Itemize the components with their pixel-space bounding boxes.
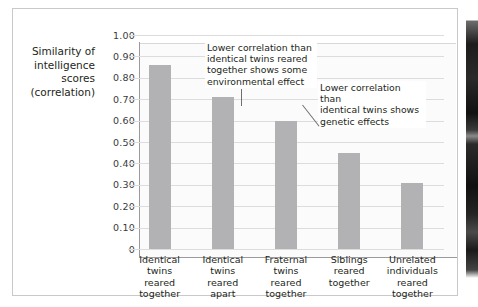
bar [149,65,171,249]
x-axis-tick-label-line: Unrelated [381,254,444,265]
annotation-line: identical twins reared [207,53,315,64]
y-axis-title-line: intelligence [27,59,95,73]
x-axis-tick-label-line: reared [254,277,317,288]
x-axis-tick-label: Identicaltwinsrearedapart [191,254,254,299]
annotation-line: Lower correlation than [320,82,424,104]
annotation-genetic-effects: Lower correlation than identical twins s… [318,81,426,128]
x-axis-tick-label-line: Fraternal [254,254,317,265]
bar [212,97,234,249]
x-axis-tick-label-line: reared [318,265,381,276]
x-axis-tick-label-line: reared [381,277,444,288]
annotation-line: Lower correlation than [207,42,315,53]
x-axis-tick-label: Identicaltwinsrearedtogether [128,254,191,299]
x-axis-tick-label-line: twins [191,265,254,276]
bar [401,183,423,249]
x-axis-tick-label-line: apart [191,288,254,299]
x-axis-tick-label-line: Siblings [318,254,381,265]
x-axis-tick-label-line: together [254,288,317,299]
annotation-line: genetic effects [320,116,424,127]
y-axis-title-line: Similarity of [27,45,95,59]
annotation-environmental-effect: Lower correlation than identical twins r… [205,41,317,88]
x-axis-tick-label-line: reared [128,277,191,288]
x-axis-tick-label-line: together [381,288,444,299]
figure-frame: Similarity of intelligence scores (corre… [12,8,458,296]
x-axis-tick-label-line: twins [254,265,317,276]
y-axis-title: Similarity of intelligence scores (corre… [27,45,95,99]
gridline [128,249,444,250]
bar [275,121,297,249]
x-axis-tick-label: Fraternaltwinsrearedtogether [254,254,317,299]
gridline [128,35,444,36]
bar [338,153,360,249]
x-axis-tick-label-line: Identical [191,254,254,265]
annotation-line: together shows some [207,64,315,75]
y-axis-title-line: scores [27,72,95,86]
adjacent-image-strip [466,18,478,280]
annotation-leader-line-1 [241,89,242,106]
x-axis-tick-label-line: together [318,277,381,288]
x-axis-tick-label: Unrelatedindividualsrearedtogether [381,254,444,299]
y-axis-line [139,42,140,258]
x-axis-tick-label-line: together [128,288,191,299]
annotation-line: identical twins shows [320,104,424,115]
x-axis-tick-label: Siblingsrearedtogether [318,254,381,288]
x-axis-tick-label-line: twins [128,265,191,276]
x-axis-tick-label-line: Identical [128,254,191,265]
x-axis-tick-label-line: individuals [381,265,444,276]
x-axis-tick-label-line: reared [191,277,254,288]
annotation-line: environmental effect [207,76,315,87]
y-axis-title-line: (correlation) [27,86,95,100]
